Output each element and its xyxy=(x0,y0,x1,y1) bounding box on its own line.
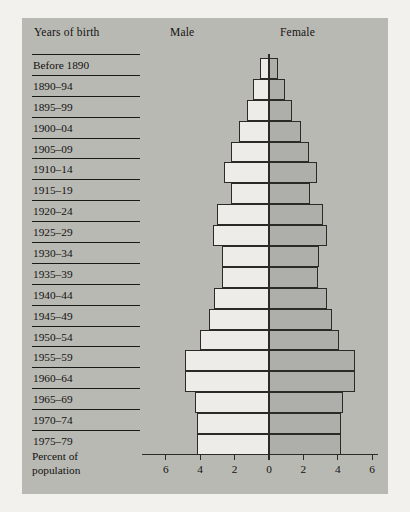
zero-axis-line xyxy=(268,54,269,455)
axis-tick-label: 4 xyxy=(335,463,341,475)
male-bar xyxy=(213,225,270,246)
male-bar xyxy=(200,330,270,351)
year-row-label: 1935–39 xyxy=(32,263,140,284)
female-bar xyxy=(268,350,355,371)
female-bar xyxy=(268,225,327,246)
male-column-header: Male xyxy=(170,26,194,38)
female-bar xyxy=(268,330,338,351)
axis-tick xyxy=(337,454,338,460)
male-bar xyxy=(224,162,269,183)
pyramid-row xyxy=(142,121,378,142)
axis-tick-label: 6 xyxy=(369,463,375,475)
female-bar xyxy=(268,79,285,100)
male-bar xyxy=(195,392,270,413)
year-row-label: 1940–44 xyxy=(32,284,140,305)
axis-tick xyxy=(200,454,201,460)
axis-tick-label: 2 xyxy=(301,463,307,475)
pyramid-row xyxy=(142,183,378,204)
x-axis: 6420246 xyxy=(142,454,378,484)
axis-tick-label: 2 xyxy=(232,463,238,475)
year-row-label: 1925–29 xyxy=(32,221,140,242)
year-row-label: 1960–64 xyxy=(32,367,140,388)
year-row-label: 1915–19 xyxy=(32,179,140,200)
pyramid-row xyxy=(142,204,378,225)
pyramid-row xyxy=(142,309,378,330)
pyramid-row xyxy=(142,142,378,163)
female-bar xyxy=(268,121,301,142)
pyramid-row xyxy=(142,100,378,121)
male-bar xyxy=(217,204,269,225)
plot-area xyxy=(142,54,378,454)
female-bar xyxy=(268,309,331,330)
years-of-birth-header: Years of birth xyxy=(34,26,100,38)
male-bar xyxy=(253,79,270,100)
pyramid-row xyxy=(142,392,378,413)
male-bar xyxy=(247,100,270,121)
female-bar xyxy=(268,183,310,204)
male-bar xyxy=(239,121,270,142)
male-bar xyxy=(185,350,270,371)
female-bar xyxy=(268,162,317,183)
pyramid-row xyxy=(142,246,378,267)
pyramid-row xyxy=(142,267,378,288)
female-bar xyxy=(268,288,326,309)
pyramid-row xyxy=(142,225,378,246)
x-axis-line xyxy=(142,454,378,455)
female-bar xyxy=(268,371,355,392)
year-label-column: Before 18901890–941895–991900–041905–091… xyxy=(32,54,140,451)
female-bar xyxy=(268,267,318,288)
axis-tick xyxy=(372,454,373,460)
year-row-label: 1930–34 xyxy=(32,242,140,263)
year-row-label: 1890–94 xyxy=(32,75,140,96)
male-bar xyxy=(222,267,270,288)
axis-tick-label: 6 xyxy=(163,463,169,475)
pyramid-row xyxy=(142,79,378,100)
year-row-label: Before 1890 xyxy=(32,54,140,75)
female-bar xyxy=(268,413,341,434)
caption-line-1: Percent of xyxy=(32,450,78,462)
bar-rows xyxy=(142,58,378,455)
pyramid-row xyxy=(142,330,378,351)
female-bar xyxy=(268,392,343,413)
chart-header: Years of birth Male Female xyxy=(22,18,388,46)
male-bar xyxy=(185,371,270,392)
pyramid-row xyxy=(142,371,378,392)
year-row-label: 1920–24 xyxy=(32,200,140,221)
axis-tick-label: 0 xyxy=(266,463,272,475)
female-bar xyxy=(268,434,341,455)
female-bar xyxy=(268,204,323,225)
pyramid-row xyxy=(142,288,378,309)
year-row-label: 1955–59 xyxy=(32,346,140,367)
year-row-label: 1900–04 xyxy=(32,117,140,138)
year-row-label: 1945–49 xyxy=(32,305,140,326)
male-bar xyxy=(231,183,270,204)
year-row-label: 1975–79 xyxy=(32,430,140,451)
axis-tick-label: 4 xyxy=(197,463,203,475)
axis-caption: Percent of population xyxy=(32,450,142,477)
male-bar xyxy=(222,246,270,267)
axis-tick xyxy=(234,454,235,460)
female-bar xyxy=(268,100,292,121)
male-bar xyxy=(231,142,270,163)
year-row-label: 1910–14 xyxy=(32,158,140,179)
year-row-label: 1905–09 xyxy=(32,138,140,159)
caption-line-2: population xyxy=(32,464,142,478)
pyramid-row xyxy=(142,350,378,371)
year-row-label: 1895–99 xyxy=(32,96,140,117)
axis-tick xyxy=(165,454,166,460)
pyramid-row xyxy=(142,58,378,79)
year-row-label: 1965–69 xyxy=(32,388,140,409)
male-bar xyxy=(214,288,270,309)
female-bar xyxy=(268,58,278,79)
male-bar xyxy=(197,413,270,434)
pyramid-row xyxy=(142,162,378,183)
year-row-label: 1970–74 xyxy=(32,409,140,430)
male-bar xyxy=(209,309,270,330)
female-column-header: Female xyxy=(280,26,315,38)
male-bar xyxy=(197,434,270,455)
year-row-label: 1950–54 xyxy=(32,326,140,347)
pyramid-row xyxy=(142,413,378,434)
axis-tick xyxy=(303,454,304,460)
population-pyramid-figure: Years of birth Male Female Before 189018… xyxy=(22,18,388,494)
female-bar xyxy=(268,142,308,163)
